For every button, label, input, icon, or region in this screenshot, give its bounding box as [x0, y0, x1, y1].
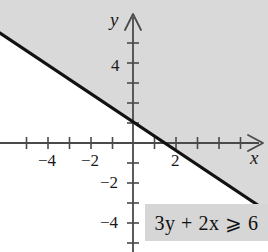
x-tick-label-neg2: −2: [81, 152, 99, 169]
inequality-expression: 3y + 2x ⩾ 6: [155, 211, 259, 235]
y-tick-label-neg4: −4: [100, 214, 118, 231]
x-axis-label: x: [250, 148, 258, 167]
shaded-region: [0, 0, 268, 212]
inequality-label-box: 3y + 2x ⩾ 6: [145, 204, 268, 241]
x-tick-label-2: 2: [171, 152, 180, 169]
x-tick-label-neg4: −4: [38, 152, 56, 169]
inequality-graph-figure: y x −4 −2 2 4 −2 −4 3y + 2x ⩾ 6: [0, 0, 268, 252]
y-tick-label-neg2: −2: [100, 174, 118, 191]
y-tick-label-4: 4: [111, 57, 120, 74]
y-axis-label: y: [110, 10, 118, 29]
